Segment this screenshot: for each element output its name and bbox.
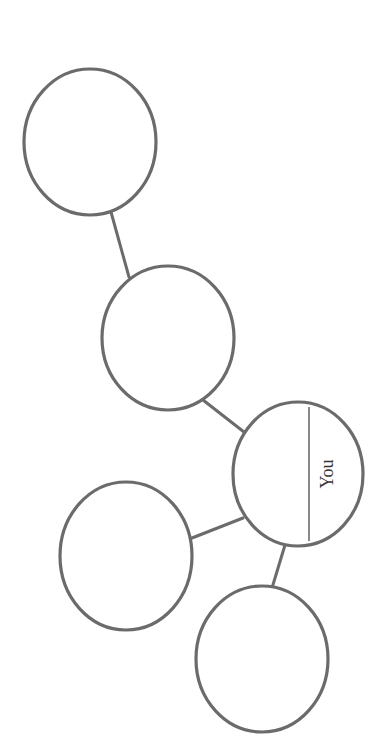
center-node-label: You [317, 459, 337, 488]
edge-center-node4 [272, 545, 285, 588]
edge-center-node3 [192, 518, 243, 538]
empty-node-3[interactable] [60, 482, 192, 630]
empty-node-1[interactable] [24, 69, 156, 215]
empty-node-2[interactable] [102, 266, 234, 410]
empty-node-4[interactable] [196, 586, 328, 732]
center-node-shape [233, 402, 363, 546]
concept-web-diagram: You [0, 0, 380, 754]
center-node[interactable]: You [233, 402, 363, 546]
edge-node2-center [203, 400, 244, 432]
edge-node1-node2 [111, 212, 129, 277]
